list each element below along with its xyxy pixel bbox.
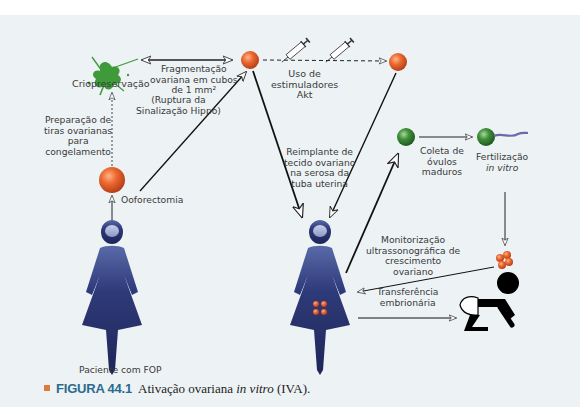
ovary-fragment-icon — [241, 51, 259, 69]
label-fertilizacao: Fertilização in vitro — [476, 152, 528, 173]
label-reimplante: Reimplante de tecido ovariano na serosa … — [284, 147, 355, 189]
recipient-figure-icon — [290, 220, 350, 375]
oocyte-icon — [397, 128, 415, 146]
ovary-icon — [99, 167, 125, 193]
label-uso-estimuladores: Uso de estimuladores Akt — [271, 69, 338, 101]
patient-figure-icon — [82, 220, 142, 375]
label-coleta: Coleta de óvulos maduros — [420, 146, 464, 178]
syringe-icon — [279, 37, 310, 65]
label-monitorizacao: Monitorização ultrassonográfica de cresc… — [366, 235, 460, 277]
caption-text: Ativação ovariana — [138, 381, 236, 396]
sperm-icon — [494, 133, 528, 136]
label-paciente: Paciente com FOP — [79, 365, 162, 376]
stimulated-ovary-icon — [389, 53, 407, 71]
figure-diagram: Criopreservação Fragmentação ovariana em… — [0, 15, 580, 407]
arrow-akt-stimulation — [263, 60, 386, 61]
label-fragmentacao: Fragmentação ovariana em cubos de 1 mm² — [150, 64, 238, 96]
fertilized-oocyte-icon — [477, 128, 495, 146]
caption-figure-number: FIGURA 44.1 — [56, 381, 132, 396]
label-transferencia: Transferência embrionária — [377, 287, 438, 308]
caption-italic: in vitro — [236, 381, 273, 396]
baby-icon — [460, 272, 519, 331]
caption-text-end: (IVA). — [274, 381, 311, 396]
label-ooforectomia: Ooforectomia — [121, 195, 183, 206]
label-ruptura-hippo: (Ruptura da Sinalização Hippo) — [136, 95, 221, 116]
arrow-reimplant-right — [330, 73, 396, 217]
label-criopreservacao: Criopreservação — [72, 79, 150, 90]
label-preparacao: Preparação de tiras ovarianas para conge… — [44, 115, 112, 157]
figure-caption: FIGURA 44.1Ativação ovariana in vitro (I… — [44, 381, 310, 397]
caption-bullet-icon — [44, 385, 50, 391]
embryo-icon — [496, 251, 513, 269]
